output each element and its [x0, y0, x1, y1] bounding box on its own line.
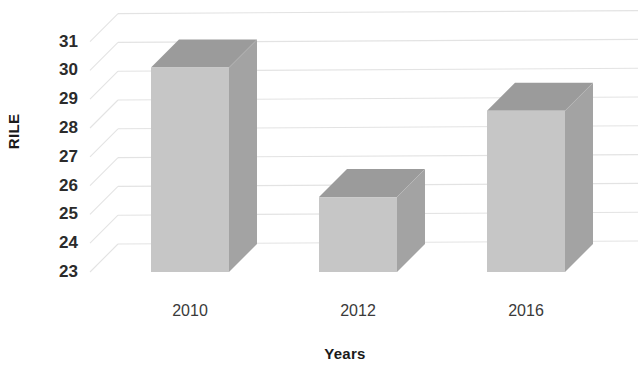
y-tick-label: 23 — [38, 263, 78, 280]
bar-front-face — [319, 197, 397, 272]
depth-connector-line — [90, 129, 118, 157]
bar-front-face — [487, 111, 565, 272]
depth-connector-line — [90, 215, 118, 243]
y-tick-label: 26 — [38, 177, 78, 194]
y-tick-label: 30 — [38, 61, 78, 78]
bar-side-face — [229, 40, 257, 272]
y-tick-label: 29 — [38, 90, 78, 107]
bar-2012 — [319, 169, 425, 272]
depth-connector-line — [90, 244, 118, 272]
depth-connector-line — [90, 14, 118, 42]
bar-front-face — [151, 68, 229, 272]
y-tick-label: 24 — [38, 234, 78, 251]
depth-connector-line — [90, 158, 118, 186]
gridline — [118, 11, 638, 14]
depth-connector-line — [90, 42, 118, 70]
y-tick-label: 27 — [38, 148, 78, 165]
y-tick-label: 28 — [38, 119, 78, 136]
depth-connector-line — [90, 100, 118, 128]
depth-connector-line — [90, 186, 118, 214]
x-tick-label: 2016 — [471, 303, 581, 319]
depth-connector-line — [90, 71, 118, 99]
bar-side-face — [565, 83, 593, 272]
x-axis-title: Years — [245, 345, 445, 362]
y-tick-label: 31 — [38, 33, 78, 50]
bar-chart-3d: RILE Years 313029282726252423 2010201220… — [0, 0, 638, 371]
x-tick-label: 2012 — [303, 303, 413, 319]
y-axis-title: RILE — [5, 102, 22, 162]
floor-lines-group — [90, 14, 118, 272]
y-tick-label: 25 — [38, 205, 78, 222]
x-tick-label: 2010 — [135, 303, 245, 319]
bar-2016 — [487, 83, 593, 272]
bar-2010 — [151, 40, 257, 272]
